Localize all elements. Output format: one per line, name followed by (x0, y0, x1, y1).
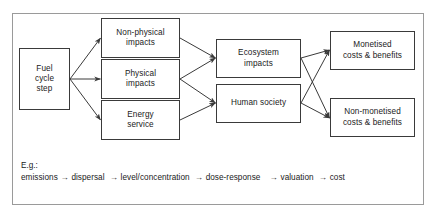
legend-step: valuation (281, 173, 314, 182)
edge-human-to-nonmonetised (301, 103, 330, 118)
legend-step: dispersal (71, 173, 104, 182)
edge-physical-to-human (180, 79, 216, 103)
legend-step: level/concentration (121, 173, 190, 182)
legend-arrow-icon: → (58, 173, 72, 182)
edge-ecosystem-to-monetised (301, 50, 330, 58)
legend-example-chain: E.g.: emissions → dispersal → level/conc… (21, 160, 417, 184)
edge-human-to-monetised (301, 50, 330, 103)
edge-ecosystem-to-nonmonetised (301, 58, 330, 118)
edge-fuel-to-energy (70, 79, 101, 120)
node-ecosystem-impacts-line2: impacts (238, 59, 279, 69)
node-non-monetised-line1: Non-monetised (343, 107, 402, 117)
node-monetised-costs-benefits[interactable]: Monetised costs & benefits (330, 31, 415, 70)
node-human-society-line1: Human society (231, 98, 286, 108)
node-energy-service-line1: Energy (127, 110, 154, 120)
node-energy-service-line2: service (127, 120, 154, 130)
legend-arrow-icon: → (260, 173, 280, 182)
legend-arrow-icon: → (190, 173, 206, 182)
node-non-monetised-costs-benefits[interactable]: Non-monetised costs & benefits (330, 98, 415, 137)
node-physical-impacts-line1: Physical (125, 69, 156, 79)
node-energy-service[interactable]: Energy service (101, 100, 180, 140)
legend-step: dose-response (206, 173, 261, 182)
node-fuel-cycle-step-line1: Fuel (35, 64, 54, 74)
node-monetised-line1: Monetised (343, 40, 402, 50)
node-non-monetised-line2: costs & benefits (343, 118, 402, 128)
legend-label: E.g.: (21, 160, 417, 172)
node-non-physical-impacts-line1: Non-physical (116, 28, 164, 38)
node-non-physical-impacts-line2: impacts (116, 38, 164, 48)
edge-energy-to-human (180, 103, 216, 120)
edge-physical-to-ecosystem (180, 58, 216, 79)
node-fuel-cycle-step-line3: step (35, 84, 54, 94)
node-monetised-line2: costs & benefits (343, 51, 402, 61)
legend-step: cost (330, 173, 345, 182)
node-ecosystem-impacts-line1: Ecosystem (238, 48, 279, 58)
legend-step: emissions (21, 173, 58, 182)
node-physical-impacts-line2: impacts (125, 79, 156, 89)
node-non-physical-impacts[interactable]: Non-physical impacts (101, 18, 180, 58)
edge-fuel-to-nonphysical (70, 38, 101, 79)
node-ecosystem-impacts[interactable]: Ecosystem impacts (216, 39, 301, 78)
legend-chain: emissions → dispersal → level/concentrat… (21, 172, 417, 184)
node-physical-impacts[interactable]: Physical impacts (101, 59, 180, 99)
legend-arrow-icon: → (105, 173, 121, 182)
edge-nonphysical-to-ecosystem (180, 38, 216, 58)
diagram-canvas: Fuel cycle step Non-physical impacts Phy… (0, 0, 438, 219)
node-human-society[interactable]: Human society (216, 84, 301, 123)
node-fuel-cycle-step-line2: cycle (35, 74, 54, 84)
node-fuel-cycle-step[interactable]: Fuel cycle step (19, 48, 70, 110)
legend-arrow-icon: → (314, 173, 330, 182)
